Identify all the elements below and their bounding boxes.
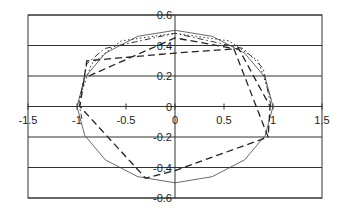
y-tick-label: 0.4 — [157, 40, 172, 52]
y-tick-label: 0 — [166, 101, 172, 113]
x-tick-label: 0.5 — [216, 114, 231, 126]
y-tick-label: -0.2 — [153, 131, 172, 143]
chart: 0.60.40.20-0.2-0.4-0.6-1.5-1-0.500.511.5 — [0, 0, 348, 211]
line-chart: 0.60.40.20-0.2-0.4-0.6-1.5-1-0.500.511.5 — [0, 0, 348, 211]
x-tick-label: 0 — [172, 114, 178, 126]
x-tick-label: -0.5 — [117, 114, 136, 126]
y-tick-label: -0.6 — [153, 192, 172, 204]
x-tick-label: 1.5 — [314, 114, 329, 126]
y-tick-label: 0.6 — [157, 9, 172, 21]
y-tick-label: 0.2 — [157, 70, 172, 82]
x-tick-label: -1.5 — [19, 114, 38, 126]
